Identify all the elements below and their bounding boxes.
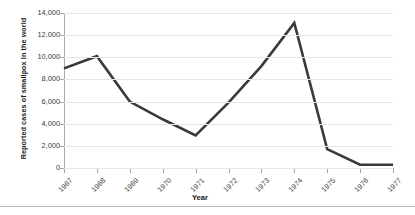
- y-tick-mark: [60, 57, 64, 58]
- bottom-divider: [0, 206, 415, 207]
- x-tick-mark: [229, 169, 230, 173]
- y-tick-mark: [60, 13, 64, 14]
- x-tick-mark: [97, 169, 98, 173]
- x-axis-title: Year: [0, 193, 400, 202]
- y-tick-mark: [60, 102, 64, 103]
- x-axis-tick-labels: 1967196819691970197119721973197419751976…: [0, 0, 415, 215]
- x-tick-mark: [130, 169, 131, 173]
- y-tick-mark: [60, 35, 64, 36]
- x-tick-mark: [294, 169, 295, 173]
- x-tick-mark: [327, 169, 328, 173]
- x-tick-mark: [64, 169, 65, 173]
- smallpox-line-chart: Reported cases of smallpox in the world …: [0, 0, 415, 215]
- x-tick-mark: [393, 169, 394, 173]
- y-tick-mark: [60, 146, 64, 147]
- y-tick-mark: [60, 79, 64, 80]
- x-tick-mark: [163, 169, 164, 173]
- x-tick-mark: [196, 169, 197, 173]
- x-tick-mark: [261, 169, 262, 173]
- x-tick-mark: [360, 169, 361, 173]
- y-tick-mark: [60, 124, 64, 125]
